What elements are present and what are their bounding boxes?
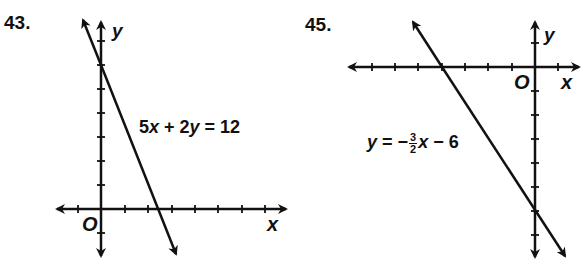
- x-axis-label: x: [561, 71, 572, 94]
- equation-43: 5x + 2y = 12: [139, 117, 240, 138]
- x-axis-label: x: [267, 213, 278, 236]
- graph-line-43: [83, 20, 101, 65]
- origin-label: O: [82, 213, 98, 236]
- problem-number-43: 43.: [4, 12, 30, 34]
- equation-45: y = −32x − 6: [367, 132, 459, 155]
- problem-number-45: 45.: [305, 14, 331, 36]
- y-axis-label: y: [112, 20, 123, 42]
- y-axis-label: y: [544, 24, 555, 46]
- origin-label: O: [514, 71, 530, 94]
- graph-line-45: [413, 22, 442, 67]
